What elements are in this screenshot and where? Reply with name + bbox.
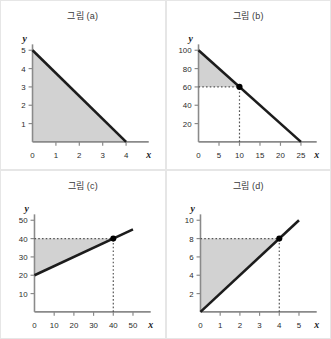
panel-b-xtick-25: 25 (296, 151, 305, 160)
panel-b-ytick-100: 100 (178, 46, 192, 55)
panel-d-ytick-8: 8 (189, 234, 194, 243)
panel-b-ytick-60: 60 (182, 83, 191, 92)
figure-grid: 그림 (a) (0, 0, 331, 339)
panel-c-xtick-20: 20 (70, 320, 79, 329)
panel-d-x-axis-label: x (313, 318, 319, 329)
panel-a-plot: 1 2 3 4 5 0 1 2 3 4 y x (1, 1, 165, 169)
panel-c-ytick-40: 40 (19, 234, 28, 243)
panel-d-ytick-6: 6 (189, 252, 194, 261)
panel-c-xtick-0: 0 (32, 320, 37, 329)
panel-a-y-axis-label: y (21, 33, 27, 44)
panel-d-y-axis-label: y (189, 203, 195, 214)
panel-a: 그림 (a) (0, 0, 166, 170)
panel-b-ytick-40: 40 (182, 101, 191, 110)
panel-b-data-point-marker (236, 84, 242, 90)
panel-c-plot: 10 20 30 40 50 0 10 20 30 40 50 y x (1, 171, 165, 339)
panel-a-ytick-2: 2 (21, 101, 25, 110)
panel-c-xtick-50: 50 (129, 320, 138, 329)
panel-c-y-axis-label: y (23, 203, 29, 214)
panel-a-xtick-4: 4 (124, 151, 129, 160)
panel-a-xtick-2: 2 (77, 151, 81, 160)
panel-d-xtick-5: 5 (296, 320, 301, 329)
panel-a-xtick-1: 1 (54, 151, 58, 160)
panel-d-data-point-marker (276, 235, 282, 241)
panel-b-ytick-20: 20 (182, 120, 191, 129)
panel-c-ytick-30: 30 (19, 252, 28, 261)
panel-a-ytick-5: 5 (21, 46, 26, 55)
panel-b-xtick-10: 10 (235, 151, 244, 160)
panel-a-xtick-3: 3 (101, 151, 106, 160)
panel-b-boundary-line (198, 50, 300, 142)
panel-d-xtick-0: 0 (198, 320, 203, 329)
panel-c-xtick-40: 40 (109, 320, 118, 329)
panel-d-plot: 2 4 6 8 10 0 1 2 3 4 5 y x (167, 171, 331, 339)
panel-c-ytick-20: 20 (19, 271, 28, 280)
panel-c-ytick-10: 10 (19, 289, 28, 298)
panel-c-data-point-marker (110, 235, 116, 241)
panel-a-ytick-3: 3 (21, 83, 26, 92)
panel-a-x-axis-label: x (145, 149, 151, 160)
panel-c-x-axis-label: x (147, 318, 153, 329)
panel-b-xtick-20: 20 (276, 151, 285, 160)
panel-c-xtick-10: 10 (50, 320, 59, 329)
panel-b-y-axis-label: y (187, 33, 193, 44)
panel-d-xtick-2: 2 (237, 320, 241, 329)
panel-b: 그림 (b) (166, 0, 331, 170)
panel-d-xtick-3: 3 (257, 320, 262, 329)
panel-b-x-axis-label: x (313, 149, 319, 160)
panel-c-xtick-30: 30 (89, 320, 98, 329)
panel-b-xtick-5: 5 (216, 151, 221, 160)
panel-c: 그림 (c) 10 (0, 170, 166, 339)
panel-d-ytick-10: 10 (184, 216, 193, 225)
panel-d-xtick-1: 1 (217, 320, 221, 329)
panel-d-ytick-4: 4 (189, 271, 194, 280)
panel-d-xtick-4: 4 (277, 320, 282, 329)
panel-d-ytick-2: 2 (189, 289, 193, 298)
panel-d: 그림 (d) 2 (166, 170, 331, 339)
panel-b-ytick-80: 80 (182, 65, 191, 74)
panel-b-plot: 20 40 60 80 100 0 5 10 15 20 25 y x (167, 1, 331, 169)
panel-a-xtick-0: 0 (30, 151, 35, 160)
panel-c-ytick-50: 50 (19, 216, 28, 225)
panel-a-ytick-1: 1 (21, 120, 25, 129)
panel-b-xtick-15: 15 (255, 151, 264, 160)
panel-b-xtick-0: 0 (196, 151, 201, 160)
panel-a-ytick-4: 4 (21, 65, 26, 74)
